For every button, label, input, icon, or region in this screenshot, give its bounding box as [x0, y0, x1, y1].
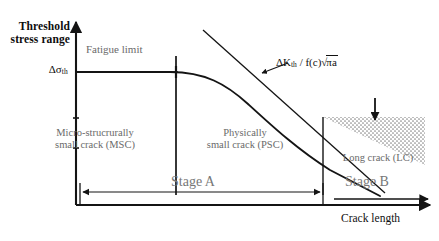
formula-radicand: πa — [326, 55, 337, 68]
zone-label-msc: Micro-strucrurally small crack (MSC) — [30, 127, 160, 151]
zone-msc-line2: small crack (MSC) — [55, 139, 135, 150]
formula-prefix: ΔK — [276, 56, 291, 68]
y-axis-title-line2: stress range — [11, 33, 70, 45]
figure-canvas: Threshold stress range Δσth Fatigue limi… — [0, 0, 439, 241]
zone-psc-line2: small crack (PSC) — [207, 139, 283, 150]
y-axis-tick-label: Δσth — [16, 63, 68, 77]
y-tick-symbol: Δσ — [49, 63, 62, 75]
zone-label-lc: Long crack (LC) — [326, 152, 430, 164]
y-axis-title: Threshold stress range — [4, 20, 70, 46]
stage-b-label: Stage B — [345, 174, 389, 190]
delta-k-threshold-formula-label: ΔKth / f(c)√πa — [276, 56, 338, 70]
y-tick-subscript: th — [62, 67, 68, 76]
formula-mid: / f(c) — [297, 56, 321, 68]
y-axis-title-line1: Threshold — [19, 20, 70, 32]
x-axis-title: Crack length — [341, 212, 400, 225]
zone-psc-line1: Physically — [223, 127, 267, 138]
stage-a-label: Stage A — [171, 174, 215, 190]
zone-msc-line1: Micro-strucrurally — [56, 127, 134, 138]
zone-label-psc: Physically small crack (PSC) — [185, 127, 305, 151]
zone-lc-line1: Long crack (LC) — [343, 152, 414, 163]
asymptote-line — [203, 30, 385, 193]
fatigue-limit-label: Fatigue limit — [86, 43, 143, 55]
